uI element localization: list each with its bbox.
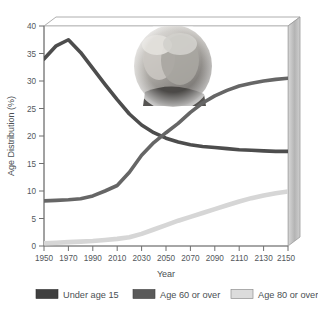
legend-label-age-80-or-over: Age 80 or over	[258, 290, 318, 300]
y-tick-label: 25	[27, 105, 37, 114]
plot-box-right-face	[288, 17, 300, 246]
x-tick-label: 1990	[84, 254, 103, 263]
x-tick-label: 2130	[254, 254, 273, 263]
legend-label-age-60-or-over: Age 60 or over	[160, 290, 220, 300]
y-tick-label: 30	[27, 77, 37, 86]
x-tick-label: 2150	[277, 254, 296, 263]
elderly-couple-photo	[131, 21, 215, 111]
x-tick-label: 1950	[35, 254, 54, 263]
x-tick-label: 2030	[132, 254, 151, 263]
x-tick-label: 2070	[181, 254, 200, 263]
x-axis-ticks	[44, 246, 288, 251]
x-tick-label: 2050	[157, 254, 176, 263]
y-tick-label: 35	[27, 50, 37, 59]
x-axis-title: Year	[157, 269, 175, 279]
legend-label-under-age-15: Under age 15	[63, 290, 119, 300]
y-tick-label: 15	[27, 160, 37, 169]
x-axis-tick-labels: 1950 1970 1990 2010 2030 2050 2070 2090 …	[35, 254, 296, 263]
legend-swatch-age-60-or-over	[133, 290, 155, 299]
x-tick-label: 2110	[230, 254, 248, 263]
x-tick-label: 2010	[108, 254, 127, 263]
y-tick-label: 20	[27, 132, 37, 141]
legend-swatch-age-80-or-over	[231, 290, 253, 299]
chart-canvas: 0 5 10 15 20 25 30 35 40 1950 1970	[0, 0, 318, 309]
chart-legend: Under age 15 Age 60 or over Age 80 or ov…	[36, 290, 318, 300]
y-tick-label: 10	[27, 187, 37, 196]
y-tick-label: 0	[31, 242, 36, 251]
population-age-distribution-chart: 0 5 10 15 20 25 30 35 40 1950 1970	[0, 0, 318, 309]
x-tick-label: 1970	[59, 254, 78, 263]
legend-swatch-under-age-15	[36, 290, 58, 299]
y-tick-label: 5	[31, 215, 36, 224]
y-axis-tick-labels: 0 5 10 15 20 25 30 35 40	[27, 22, 37, 251]
y-axis-ticks	[39, 26, 44, 246]
y-axis-title: Age Distribution (%)	[6, 96, 16, 176]
y-tick-label: 40	[27, 22, 37, 31]
x-tick-label: 2090	[206, 254, 225, 263]
plot-box-top-face	[44, 17, 300, 26]
